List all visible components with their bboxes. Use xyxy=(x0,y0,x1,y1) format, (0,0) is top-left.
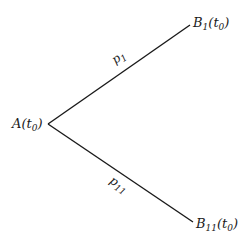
node-upper-base: B xyxy=(193,15,203,30)
node-lower-base: B xyxy=(196,216,206,231)
node-upper-sub: 1 xyxy=(203,22,209,32)
edge-upper xyxy=(48,25,190,124)
node-root-base: A xyxy=(12,116,21,131)
node-upper-arg-sub: 0 xyxy=(219,22,225,32)
edge-lower xyxy=(48,124,193,222)
node-upper-label: B1(t0) xyxy=(193,16,229,30)
node-root-arg-sub: 0 xyxy=(32,123,38,133)
node-lower-sub: 11 xyxy=(206,223,217,233)
node-lower-label: B11(t0) xyxy=(196,217,238,231)
node-root-label: A(t0) xyxy=(12,117,43,131)
node-lower-arg-sub: 0 xyxy=(227,223,233,233)
